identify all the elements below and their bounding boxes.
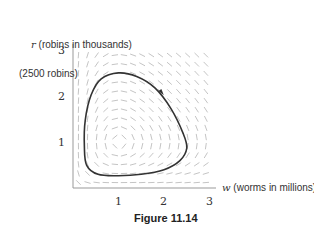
x-tick-2: 2 <box>160 195 167 208</box>
x-tick-3: 3 <box>206 195 213 208</box>
y-axis-label: r (robins in thousands) <box>31 39 132 50</box>
slope-field <box>76 52 209 185</box>
y-tick-3: 3 <box>58 44 65 57</box>
y-tick-2: 2 <box>58 90 65 103</box>
annotation-2500-robins: (2500 robins) <box>19 68 78 79</box>
figure-caption: Figure 11.14 <box>134 212 198 224</box>
x-tick-1: 1 <box>115 195 122 208</box>
phase-plane-plot <box>0 0 314 238</box>
trajectory-curve <box>84 73 187 176</box>
y-tick-1: 1 <box>58 136 65 149</box>
x-axis-label: w (worms in millions) <box>222 182 314 193</box>
